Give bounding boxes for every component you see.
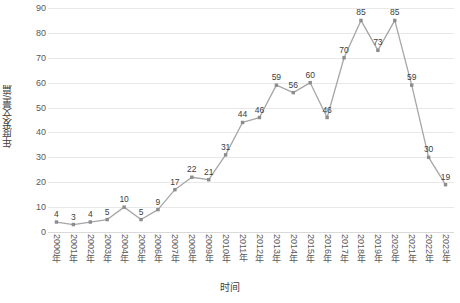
x-axis-tick-label: 2019年 <box>378 234 387 263</box>
data-point-label: 21 <box>204 167 213 176</box>
x-axis-tick-label-text: 2022年 <box>424 234 433 263</box>
data-point-marker <box>106 218 109 221</box>
x-axis-tick-label: 2008年 <box>192 234 201 263</box>
x-axis-tick-label: 2002年 <box>90 234 99 263</box>
data-point-label: 5 <box>105 207 110 216</box>
x-axis-tick-label: 2004年 <box>124 234 133 263</box>
x-axis-tick-label-text: 2008年 <box>187 234 196 263</box>
x-axis-tick-label-text: 2019年 <box>373 234 382 263</box>
x-axis-tick-label: 2014年 <box>293 234 302 263</box>
x-axis-tick-label: 2017年 <box>344 234 353 263</box>
data-point-label: 4 <box>54 210 59 219</box>
x-axis-tick-label-text: 2016年 <box>323 234 332 263</box>
data-point-label: 70 <box>339 45 348 54</box>
x-axis-tick-label-text: 2013年 <box>272 234 281 263</box>
y-axis-tick-labels: 0102030405060708090 <box>16 0 46 232</box>
x-axis-tick-label-text: 2011年 <box>238 234 247 262</box>
data-point-label: 4 <box>88 210 93 219</box>
data-point-marker <box>292 91 295 94</box>
x-axis-tick-label: 2007年 <box>175 234 184 263</box>
data-point-marker <box>275 83 278 86</box>
y-axis-tick-label: 0 <box>20 228 46 237</box>
x-axis-tick-label: 2016年 <box>327 234 336 263</box>
x-axis-tick-label: 2001年 <box>73 234 82 263</box>
data-point-marker <box>359 19 362 22</box>
data-point-marker <box>258 116 261 119</box>
y-axis-tick-label: 90 <box>20 4 46 13</box>
x-axis-tick-label-text: 2003年 <box>103 234 112 263</box>
x-axis-tick-label: 2005年 <box>141 234 150 263</box>
data-point-marker <box>224 153 227 156</box>
x-axis-tick-label: 2003年 <box>107 234 116 263</box>
data-point-label: 22 <box>187 165 196 174</box>
data-point-label: 17 <box>170 177 179 186</box>
x-axis-tick-label: 2015年 <box>310 234 319 263</box>
x-axis-tick-label-text: 2002年 <box>86 234 95 263</box>
x-axis-tick-label-text: 2021年 <box>407 234 416 263</box>
data-point-label: 85 <box>356 8 365 17</box>
x-axis-tick-label: 2013年 <box>276 234 285 263</box>
y-axis-tick-label: 60 <box>20 78 46 87</box>
data-point-marker <box>55 220 58 223</box>
data-point-label: 59 <box>272 73 281 82</box>
data-point-marker <box>342 56 345 59</box>
data-point-marker <box>444 183 447 186</box>
x-axis-tick-label-text: 2005年 <box>137 234 146 263</box>
x-axis-tick-label-text: 2012年 <box>255 234 264 263</box>
x-axis-tick-label: 2006年 <box>158 234 167 263</box>
x-axis-tick-label-text: 2006年 <box>153 234 162 263</box>
data-point-marker <box>122 205 125 208</box>
data-point-label: 10 <box>119 195 128 204</box>
data-point-label: 46 <box>322 105 331 114</box>
data-point-label: 3 <box>71 212 76 221</box>
data-point-marker <box>241 121 244 124</box>
x-axis-tick-label-text: 2018年 <box>356 234 365 263</box>
y-axis-tick-label: 80 <box>20 28 46 37</box>
y-axis-title: 年度发文量/篇 <box>0 0 16 232</box>
x-axis-tick-label: 2010年 <box>226 234 235 263</box>
x-axis-tick-label: 2018年 <box>361 234 370 263</box>
x-axis-tick-label-text: 2007年 <box>170 234 179 263</box>
x-axis-tick-label-text: 2009年 <box>204 234 213 263</box>
y-axis-tick-label: 50 <box>20 103 46 112</box>
data-point-marker <box>427 156 430 159</box>
x-axis-tick-label-text: 2000年 <box>52 234 61 263</box>
x-axis-tick-label: 2000年 <box>56 234 65 263</box>
data-point-marker <box>173 188 176 191</box>
x-axis-tick-label: 2011年 <box>243 234 252 262</box>
data-point-marker <box>309 81 312 84</box>
y-axis-tick-label: 10 <box>20 203 46 212</box>
data-point-marker <box>410 83 413 86</box>
x-axis-tick-label-text: 2010年 <box>221 234 230 263</box>
y-axis-tick-label: 70 <box>20 53 46 62</box>
data-point-label: 5 <box>139 207 144 216</box>
data-point-label: 73 <box>373 38 382 47</box>
data-point-marker <box>156 208 159 211</box>
x-axis-tick-label: 2023年 <box>446 234 455 263</box>
data-point-label: 85 <box>390 8 399 17</box>
x-axis-tick-label: 2009年 <box>209 234 218 263</box>
data-point-marker <box>207 178 210 181</box>
x-axis-tick-label: 2022年 <box>429 234 438 263</box>
x-axis-tick-label-text: 2014年 <box>289 234 298 263</box>
x-axis-tick-label-text: 2020年 <box>390 234 399 263</box>
y-axis-title-text: 年度发文量/篇 <box>3 85 13 148</box>
x-axis-tick-label: 2020年 <box>395 234 404 263</box>
x-axis-tick-label-text: 2015年 <box>306 234 315 263</box>
data-point-marker <box>376 49 379 52</box>
y-axis-tick-label: 20 <box>20 178 46 187</box>
x-axis-tick-label-text: 2004年 <box>120 234 129 263</box>
data-point-label: 44 <box>238 110 247 119</box>
gridline <box>48 232 454 233</box>
y-axis-tick-label: 30 <box>20 153 46 162</box>
x-axis-tick-label-text: 2001年 <box>69 234 78 263</box>
data-point-marker <box>393 19 396 22</box>
x-axis-title: 时间 <box>0 283 460 293</box>
x-axis-tick-label: 2021年 <box>412 234 421 263</box>
data-point-label: 31 <box>221 142 230 151</box>
data-point-marker <box>139 218 142 221</box>
data-point-marker <box>89 220 92 223</box>
data-point-marker <box>325 116 328 119</box>
data-point-label: 46 <box>255 105 264 114</box>
series-polyline <box>56 20 445 224</box>
